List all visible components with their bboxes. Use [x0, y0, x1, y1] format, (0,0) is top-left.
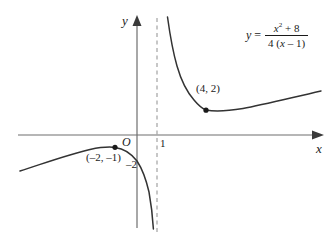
graph-figure: y x O 1 –2 (–2, –1) (4, 2) y = x2 + 8 4 … [0, 0, 336, 240]
y-tick-label-minus-2: –2 [126, 159, 137, 170]
denominator-suffix: – 1) [285, 37, 305, 49]
numerator-rest: + 8 [282, 22, 299, 34]
equation-numerator: x2 + 8 [271, 22, 303, 35]
point-label-local-max: (–2, –1) [86, 152, 121, 163]
x-tick-label-1: 1 [160, 138, 166, 149]
equation-equals-sign: = [254, 28, 261, 43]
x-axis-arrowhead [312, 131, 324, 140]
equation-fraction: x2 + 8 4 (x – 1) [265, 22, 308, 49]
origin-label: O [122, 136, 131, 148]
point-label-local-min: (4, 2) [196, 83, 220, 94]
equation-denominator: 4 (x – 1) [265, 35, 308, 49]
y-axis-label: y [122, 14, 128, 27]
marked-point-local-max [112, 145, 117, 150]
equation-lhs: y [246, 28, 251, 43]
x-axis-label: x [316, 142, 322, 155]
function-equation: y = x2 + 8 4 (x – 1) [246, 22, 308, 49]
y-axis-arrowhead [133, 15, 142, 26]
denominator-prefix: 4 ( [268, 37, 280, 49]
marked-point-local-min [203, 108, 208, 113]
